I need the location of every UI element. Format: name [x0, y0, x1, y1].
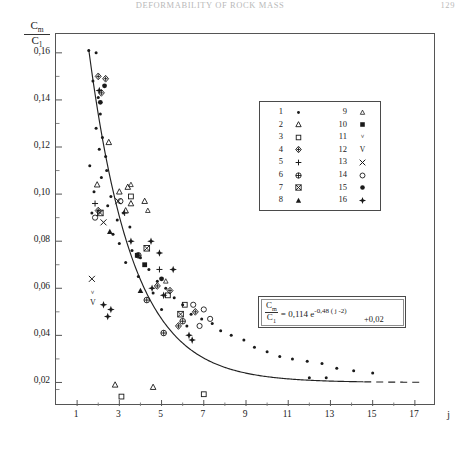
- y-tick-label: 0,14: [16, 93, 50, 103]
- equation-text: Cm C1 = 0,114 e-0,48 ( j -2): [265, 301, 347, 324]
- star-solid-icon: [356, 195, 369, 206]
- legend-number-right: 16: [328, 193, 348, 206]
- triangle-up-solid-icon: [292, 195, 305, 206]
- x-mark-icon: [356, 157, 369, 168]
- y-tick-label: 0,16: [16, 46, 50, 56]
- plot-area: ⱽV: [55, 33, 435, 405]
- x-tick-label: 1: [67, 409, 85, 419]
- x-tick-label: 17: [405, 409, 423, 419]
- legend-number-left: 6: [264, 168, 284, 181]
- y-axis-label-numerator: Cm: [24, 20, 50, 35]
- square-solid-icon: [356, 119, 369, 130]
- diamond-cross-icon: [292, 144, 305, 155]
- square-cross-icon: [292, 182, 305, 193]
- square-open-icon: [292, 132, 305, 143]
- legend-number-left: 8: [264, 193, 284, 206]
- x-tick-label: 11: [278, 409, 296, 419]
- circle-open-icon: [356, 170, 369, 181]
- running-head-title: DEFORMABILITY OF ROCK MASS: [0, 0, 420, 10]
- legend-number-left: 1: [264, 105, 284, 118]
- legend-symbol-left: [284, 143, 312, 156]
- vee-icon: V: [356, 144, 369, 155]
- y-tick-label: 0,04: [16, 328, 50, 338]
- legend-symbol-left: [284, 168, 312, 181]
- legend-column-gap: [312, 181, 328, 194]
- svg-text:ⱽ: ⱽ: [361, 134, 364, 142]
- legend-row: 513: [264, 155, 376, 168]
- circle-solid-icon: [356, 182, 369, 193]
- legend-table: 19210311ⱽ412V513614715816: [264, 105, 376, 206]
- triangle-up-tiny-icon: [356, 107, 369, 118]
- y-tick-label: 0,02: [16, 375, 50, 385]
- legend-symbol-right: [348, 181, 376, 194]
- legend-row: 19: [264, 105, 376, 118]
- legend-symbol-right: [348, 105, 376, 118]
- legend-row: 210: [264, 118, 376, 131]
- y-tick-label: 0,06: [16, 281, 50, 291]
- legend-row: 412V: [264, 143, 376, 156]
- equation-exponent: -0,48 ( j -2): [314, 307, 346, 315]
- series-1: [87, 49, 374, 379]
- legend-symbol-right: V: [348, 143, 376, 156]
- legend-symbol-right: [348, 118, 376, 131]
- legend-column-gap: [312, 130, 328, 143]
- legend-symbol-left: [284, 105, 312, 118]
- equation-fraction: Cm C1: [265, 301, 278, 324]
- equation-lhs-denominator: C1: [265, 313, 278, 324]
- legend-number-right: 9: [328, 105, 348, 118]
- legend-column-gap: [312, 193, 328, 206]
- series-12: V: [90, 298, 96, 307]
- equation-box: Cm C1 = 0,114 e-0,48 ( j -2) +0,02: [258, 296, 406, 328]
- svg-text:ⱽ: ⱽ: [91, 289, 94, 298]
- legend-row: 816: [264, 193, 376, 206]
- page-number: 129: [440, 0, 455, 10]
- x-tick-label: 15: [363, 409, 381, 419]
- legend-symbol-right: [348, 193, 376, 206]
- series-9: [129, 182, 168, 283]
- equation-coefficient: = 0,114 e: [281, 309, 315, 319]
- legend-column-gap: [312, 143, 328, 156]
- legend-number-left: 3: [264, 130, 284, 143]
- x-tick-label: 5: [152, 409, 170, 419]
- legend-number-right: 11: [328, 130, 348, 143]
- plot-svg: ⱽV: [56, 34, 436, 406]
- x-tick-label: 13: [320, 409, 338, 419]
- svg-text:V: V: [90, 298, 96, 307]
- legend-symbol-left: [284, 155, 312, 168]
- legend-number-left: 2: [264, 118, 284, 131]
- triangle-up-open-icon: [292, 119, 305, 130]
- figure-page: DEFORMABILITY OF ROCK MASS 129 Cm C1 j ⱽ…: [0, 0, 461, 450]
- dot-small-icon: [292, 107, 305, 118]
- x-axis-label: j: [447, 408, 450, 420]
- x-tick-label: 7: [194, 409, 212, 419]
- circle-cross-icon: [292, 170, 305, 181]
- legend-column-gap: [312, 168, 328, 181]
- series-11: ⱽ: [91, 289, 94, 298]
- legend-row: 715: [264, 181, 376, 194]
- equation-rhs: = 0,114 e-0,48 ( j -2): [278, 307, 347, 319]
- running-head: DEFORMABILITY OF ROCK MASS 129: [0, 0, 461, 14]
- legend-row: 311ⱽ: [264, 130, 376, 143]
- y-tick-label: 0,12: [16, 140, 50, 150]
- legend-number-left: 5: [264, 155, 284, 168]
- legend-row: 614: [264, 168, 376, 181]
- legend-symbol-left: [284, 181, 312, 194]
- y-axis-label: Cm C1: [24, 20, 50, 49]
- legend-symbol-right: [348, 155, 376, 168]
- legend-symbol-left: [284, 118, 312, 131]
- legend-number-right: 12: [328, 143, 348, 156]
- legend-box: 19210311ⱽ412V513614715816: [259, 101, 381, 211]
- series-13: [89, 198, 121, 282]
- nu-icon: ⱽ: [356, 132, 369, 143]
- plus-icon: [292, 157, 305, 168]
- legend-column-gap: [312, 118, 328, 131]
- y-tick-label: 0,10: [16, 187, 50, 197]
- legend-number-right: 13: [328, 155, 348, 168]
- legend-number-left: 4: [264, 143, 284, 156]
- series-16: [95, 87, 195, 344]
- x-tick-label: 3: [109, 409, 127, 419]
- x-tick-label: 9: [236, 409, 254, 419]
- y-tick-label: 0,08: [16, 234, 50, 244]
- legend-number-right: 10: [328, 118, 348, 131]
- legend-number-right: 14: [328, 168, 348, 181]
